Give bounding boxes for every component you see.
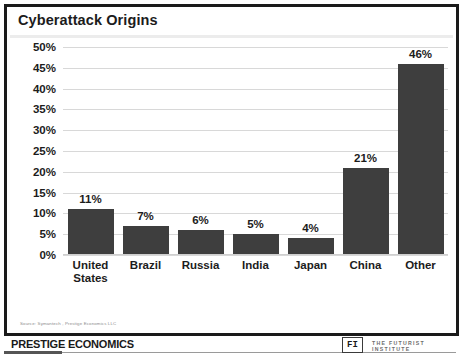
bar-value-label: 7% — [118, 210, 173, 222]
bar[interactable] — [123, 226, 169, 255]
y-axis-tick-label: 40% — [33, 83, 56, 95]
x-axis-tick-label: India — [228, 259, 283, 284]
bar[interactable] — [68, 209, 114, 255]
page-title: Cyberattack Origins — [18, 12, 158, 28]
x-axis-tick-label: Brazil — [118, 259, 173, 284]
source-note: Source: Symantech , Prestige Economics L… — [20, 321, 116, 326]
chart-plot-area: 50%45%40%35%30%25%20%15%10%5%0% 11%7%6%5… — [63, 47, 448, 255]
bar-item[interactable]: 5% — [228, 47, 283, 255]
x-axis-tick-label: Russia — [173, 259, 228, 284]
bar-value-label: 5% — [228, 218, 283, 230]
footer-divider-accent — [4, 351, 62, 354]
x-axis-tick-label: Other — [393, 259, 448, 284]
y-axis-tick-label: 20% — [33, 166, 56, 178]
bar-item[interactable]: 11% — [63, 47, 118, 255]
bar[interactable] — [178, 230, 224, 255]
futurist-institute-mark-icon: FI — [342, 337, 363, 353]
bar-value-label: 46% — [393, 48, 448, 60]
bar-value-label: 11% — [63, 193, 118, 205]
futurist-institute-name: THE FUTURIST INSTITUTE — [372, 340, 459, 352]
y-axis-tick-label: 15% — [33, 187, 56, 199]
bar-item[interactable]: 6% — [173, 47, 228, 255]
x-axis-tick-label: Japan — [283, 259, 338, 284]
y-axis-tick-label: 45% — [33, 62, 56, 74]
footer-divider — [4, 352, 456, 353]
slide-footer: PRESTIGE ECONOMICS FI THE FUTURIST INSTI… — [4, 338, 459, 358]
bar-series: 11%7%6%5%4%21%46% — [63, 47, 448, 255]
x-axis-tick-label: United States — [63, 259, 118, 284]
y-axis-tick-label: 50% — [33, 41, 56, 53]
bar-item[interactable]: 21% — [338, 47, 393, 255]
slide-frame: Cyberattack Origins 50%45%40%35%30%25%20… — [4, 4, 459, 336]
bar-item[interactable]: 46% — [393, 47, 448, 255]
bar[interactable] — [398, 64, 444, 255]
y-axis-tick-label: 35% — [33, 103, 56, 115]
axis-baseline — [63, 254, 448, 255]
y-axis-tick-label: 10% — [33, 207, 56, 219]
y-axis-tick-label: 25% — [33, 145, 56, 157]
bar-value-label: 21% — [338, 152, 393, 164]
bar-item[interactable]: 7% — [118, 47, 173, 255]
bar[interactable] — [233, 234, 279, 255]
bar[interactable] — [288, 238, 334, 255]
x-axis-labels: United StatesBrazilRussiaIndiaJapanChina… — [63, 259, 448, 284]
brand-logo-text: PRESTIGE ECONOMICS — [11, 338, 134, 350]
title-divider — [10, 35, 453, 38]
y-axis-tick-label: 30% — [33, 124, 56, 136]
bar-item[interactable]: 4% — [283, 47, 338, 255]
x-axis-tick-label: China — [338, 259, 393, 284]
gridline — [63, 255, 448, 256]
bar-value-label: 4% — [283, 222, 338, 234]
y-axis-tick-label: 0% — [39, 249, 56, 261]
bar-value-label: 6% — [173, 214, 228, 226]
slide: Cyberattack Origins 50%45%40%35%30%25%20… — [0, 0, 463, 359]
bar[interactable] — [343, 168, 389, 255]
y-axis-tick-label: 5% — [39, 228, 56, 240]
title-bar: Cyberattack Origins — [7, 7, 456, 35]
